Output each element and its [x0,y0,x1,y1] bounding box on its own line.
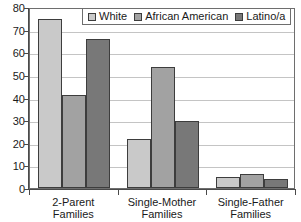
legend-label: White [99,11,127,22]
x-axis-category-label: 2-ParentFamilies [29,196,118,220]
bars-layer [30,9,294,188]
bar-group [30,9,119,188]
legend-swatch-icon [134,13,142,21]
legend-entry: Latino/a [235,11,285,22]
bar-group [207,9,296,188]
x-axis-tick-mark [295,189,296,195]
x-axis-category-label-line: 2-Parent [29,196,118,208]
x-axis-category-label-line: Families [29,208,118,220]
x-axis-category-label-line: Single-Mother [118,196,207,208]
x-axis-category-label-line: Families [206,208,295,220]
bar [175,121,199,188]
y-axis-tick-label: 20 [3,139,25,149]
y-axis-tick-label: 60 [3,48,25,58]
legend-swatch-icon [88,13,96,21]
bar [151,67,175,188]
x-axis-tick-mark [29,189,30,195]
bar [264,179,288,188]
x-axis-category-label-line: Families [118,208,207,220]
bar-chart: 01020304050607080 2-ParentFamiliesSingle… [0,0,301,222]
x-axis-tick-mark [118,189,119,195]
bar [38,19,62,188]
bar [127,139,151,188]
x-axis-line [29,189,295,190]
y-axis-tick-label: 40 [3,94,25,104]
legend-label: African American [145,11,228,22]
y-axis-tick-label: 10 [3,161,25,171]
bar [62,95,86,188]
x-axis-category-label: Single-MotherFamilies [118,196,207,220]
y-axis-tick-label: 30 [3,116,25,126]
y-axis-tick-label: 80 [3,3,25,13]
y-axis-tick-label: 50 [3,71,25,81]
y-axis-tick-label: 0 [3,184,25,194]
legend-entry: African American [134,11,228,22]
bar [216,177,240,188]
x-axis-category-label: Single-FatherFamilies [206,196,295,220]
y-axis-tick-label: 70 [3,26,25,36]
plot-area [29,8,295,189]
x-axis-category-label-line: Single-Father [206,196,295,208]
chart-legend: WhiteAfrican AmericanLatino/a [82,8,291,25]
x-axis-tick-mark [206,189,207,195]
legend-entry: White [88,11,127,22]
bar [86,39,110,188]
bar-group [119,9,208,188]
y-axis: 01020304050607080 [0,0,25,222]
legend-swatch-icon [235,13,243,21]
bar [240,174,264,188]
legend-label: Latino/a [246,11,285,22]
